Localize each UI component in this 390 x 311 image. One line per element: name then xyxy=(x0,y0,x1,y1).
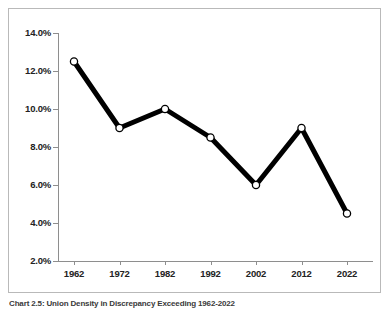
data-point-marker xyxy=(116,124,123,131)
data-point-marker xyxy=(70,58,77,65)
data-point-marker xyxy=(343,210,350,217)
data-point-marker xyxy=(161,105,168,112)
data-series-line xyxy=(9,9,382,294)
figure-frame: 2.0%4.0%6.0%8.0%10.0%12.0%14.0% 19621972… xyxy=(8,8,381,293)
chart-screenshot: 2.0%4.0%6.0%8.0%10.0%12.0%14.0% 19621972… xyxy=(0,0,390,311)
data-point-marker xyxy=(298,124,305,131)
figure-caption: Chart 2.5: Union Density in Discrepancy … xyxy=(9,299,384,308)
data-point-marker xyxy=(207,134,214,141)
plot-area: 2.0%4.0%6.0%8.0%10.0%12.0%14.0% 19621972… xyxy=(9,9,382,294)
data-point-marker xyxy=(252,181,259,188)
